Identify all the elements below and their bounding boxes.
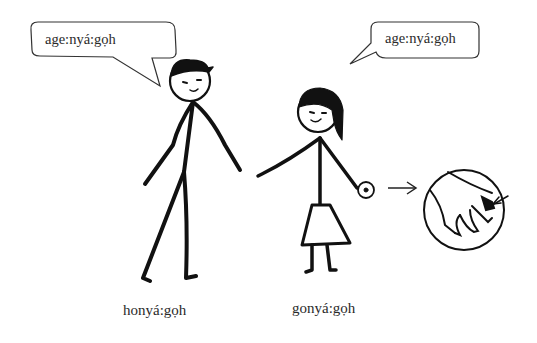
speech-text-man: age:nyá:gọh xyxy=(45,31,116,48)
caption-man: honyá:gọh xyxy=(123,302,186,319)
stick-figure-woman-icon xyxy=(258,88,374,272)
speech-text-woman: age:nyá:gọh xyxy=(385,30,456,47)
caption-woman: gonyá:gọh xyxy=(292,300,355,317)
arrow-right-icon xyxy=(388,182,416,194)
stick-figure-man-icon xyxy=(143,60,240,281)
magnified-hand-icon xyxy=(424,170,508,250)
illustration-canvas xyxy=(0,0,537,343)
